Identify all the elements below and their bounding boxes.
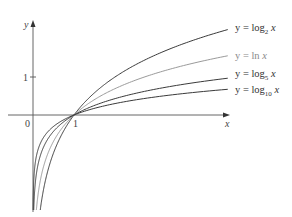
y-axis-arrow-icon [31,20,36,27]
curve-y-ln-x [36,56,227,210]
curve-label: y = log10 x [235,84,279,98]
x-axis-arrow-icon [223,113,230,118]
curve-label: y = log2 x [235,22,276,36]
curve-label: y = ln x [235,50,267,61]
x-axis-label: x [224,118,230,129]
axes: x y 0 1 1 [8,19,230,212]
y-tick-label: 1 [23,72,28,83]
y-axis-label: y [23,19,29,30]
curve-label: y = log5 x [235,68,276,82]
logarithm-chart: x y 0 1 1 y = log2 xy = ln xy = log5 xy … [0,0,292,217]
curve-y-log2-x [40,30,228,210]
curve-y-log5-x [34,78,228,210]
curve-labels: y = log2 xy = ln xy = log5 xy = log10 x [235,22,279,98]
origin-label: 0 [25,118,30,129]
curves [33,30,228,210]
curve-y-log10-x [33,89,228,210]
x-tick-label: 1 [73,118,78,129]
